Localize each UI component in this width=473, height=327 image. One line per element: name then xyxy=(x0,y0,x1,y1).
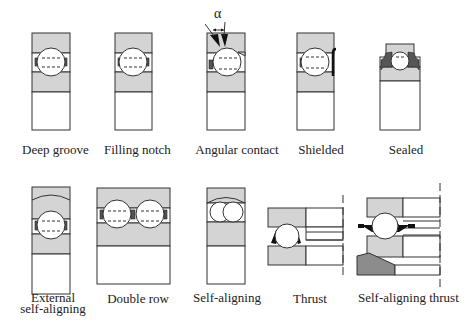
self-aligning-bearing xyxy=(207,188,245,284)
label-self-aligning-thrust: Self-aligning thrust xyxy=(358,291,458,304)
thrust-bearing xyxy=(268,195,343,277)
label-angular-contact: Angular contact xyxy=(194,143,280,156)
external-self-aligning-bearing xyxy=(32,187,70,294)
sealed-bearing xyxy=(380,44,420,130)
label-external-self-aligning: External self-aligning xyxy=(20,292,86,314)
contact-angle-symbol: α xyxy=(214,6,221,22)
filling-notch-bearing xyxy=(115,33,152,130)
label-self-aligning: Self-aligning xyxy=(192,291,262,304)
self-aligning-thrust-bearing xyxy=(357,183,440,287)
double-row-bearing xyxy=(97,188,170,284)
label-sealed: Sealed xyxy=(383,143,429,156)
label-filling-notch: Filling notch xyxy=(104,143,170,156)
deep-groove-bearing xyxy=(32,33,70,130)
label-double-row: Double row xyxy=(106,292,170,305)
label-thrust: Thrust xyxy=(290,292,330,305)
seal-left xyxy=(381,52,392,70)
bearing-types-diagram: .ring { fill:#d4d4d4; stroke:#333; strok… xyxy=(0,0,473,327)
label-external-line2: self-aligning xyxy=(20,303,86,314)
seal-right xyxy=(408,52,419,70)
label-shielded: Shielded xyxy=(296,143,346,156)
shielded-bearing xyxy=(297,33,336,130)
label-deep-groove: Deep groove xyxy=(22,143,84,156)
angular-contact-bearing xyxy=(205,22,245,130)
